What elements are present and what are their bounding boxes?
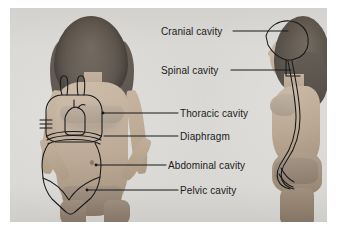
lateral-view-figure bbox=[260, 12, 327, 222]
diagram-canvas: Cranial cavity Spinal cavity Thoracic ca… bbox=[0, 0, 342, 236]
label-thoracic-cavity: Thoracic cavity bbox=[180, 108, 248, 120]
thigh-right bbox=[104, 200, 130, 222]
photo-panel bbox=[10, 8, 327, 222]
navel bbox=[90, 160, 94, 165]
thigh-left bbox=[60, 200, 86, 222]
label-abdominal-cavity: Abdominal cavity bbox=[168, 160, 245, 172]
label-pelvic-cavity: Pelvic cavity bbox=[180, 185, 236, 197]
side-briefs bbox=[274, 158, 318, 184]
anterior-view-figure bbox=[26, 10, 166, 222]
bra bbox=[60, 106, 124, 123]
side-leg bbox=[280, 188, 314, 222]
label-diaphragm: Diaphragm bbox=[180, 131, 230, 143]
side-bust bbox=[270, 94, 296, 116]
label-cranial-cavity: Cranial cavity bbox=[161, 26, 222, 38]
label-spinal-cavity: Spinal cavity bbox=[161, 65, 218, 77]
